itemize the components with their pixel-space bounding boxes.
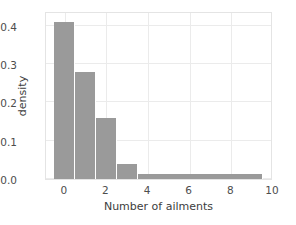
plot-area xyxy=(45,12,272,180)
x-tick-label: 0 xyxy=(60,184,67,196)
histogram-figure: 0.00.10.20.30.4 0246810 density Number o… xyxy=(0,0,296,225)
x-tick-label: 8 xyxy=(227,184,234,196)
gridline-horizontal xyxy=(46,63,271,64)
histogram-bar xyxy=(96,118,117,179)
histogram-bar xyxy=(54,22,75,179)
gridline-vertical xyxy=(148,13,149,179)
y-axis-title: density xyxy=(16,76,29,116)
y-tick-label: 0.4 xyxy=(0,21,17,33)
y-tick-label: 0.0 xyxy=(0,174,17,186)
x-tick-label: 2 xyxy=(102,184,109,196)
histogram-bar xyxy=(75,72,96,179)
x-tick-label: 4 xyxy=(144,184,151,196)
histogram-bar xyxy=(117,164,138,179)
x-tick-label: 10 xyxy=(265,184,278,196)
x-axis-title: Number of ailments xyxy=(45,200,272,213)
x-tick-label: 6 xyxy=(185,184,192,196)
y-tick-label: 0.3 xyxy=(0,59,17,71)
gridline-vertical xyxy=(231,13,232,179)
y-tick-label: 0.2 xyxy=(0,97,17,109)
histogram-bar xyxy=(138,174,263,179)
y-tick-label: 0.1 xyxy=(0,136,17,148)
gridline-horizontal xyxy=(46,25,271,26)
gridline-vertical xyxy=(190,13,191,179)
